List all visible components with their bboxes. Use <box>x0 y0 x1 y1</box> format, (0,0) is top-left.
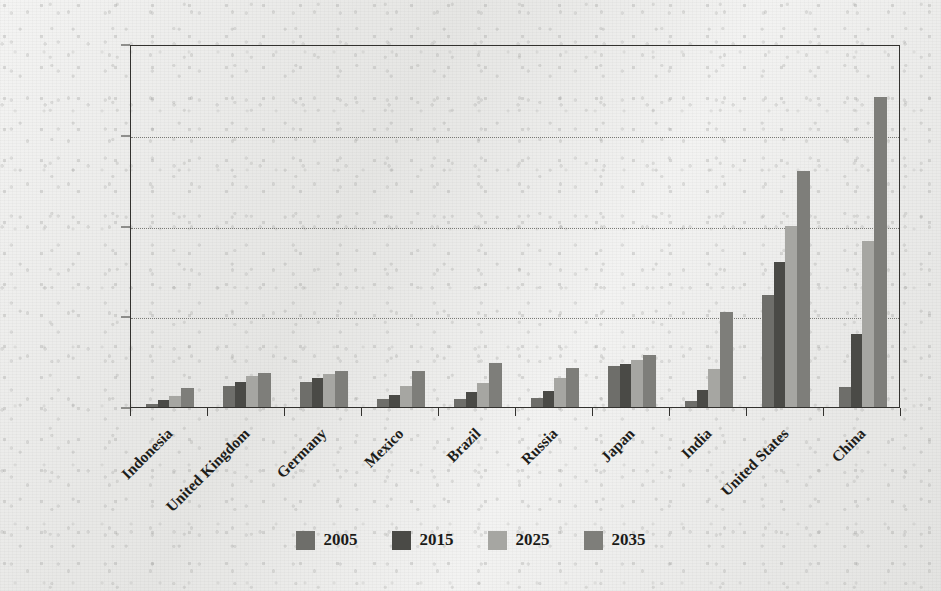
bar <box>412 371 424 407</box>
x-axis-tick-mark <box>823 408 824 416</box>
bar-chart: $0.00$10,000.00$20,000.00$30,000.00$40,0… <box>0 0 941 591</box>
y-axis-tick-mark <box>121 45 130 46</box>
x-axis-tick-mark <box>515 408 516 416</box>
bars-layer <box>131 46 899 407</box>
bar <box>720 312 732 407</box>
bar <box>223 386 235 407</box>
bar <box>477 383 489 407</box>
legend-label: 2015 <box>420 530 454 550</box>
bar <box>454 399 466 407</box>
bar-group <box>762 46 810 407</box>
bar-group <box>531 46 579 407</box>
legend-swatch-icon <box>392 531 411 550</box>
bar <box>543 391 555 407</box>
bar <box>774 262 786 407</box>
x-axis-tick-mark <box>669 408 670 416</box>
x-axis-tick-mark <box>207 408 208 416</box>
legend-label: 2035 <box>612 530 646 550</box>
legend-swatch-icon <box>584 531 603 550</box>
bar-group <box>300 46 348 407</box>
bar-group <box>454 46 502 407</box>
bar <box>643 355 655 407</box>
bar <box>797 171 809 407</box>
bar <box>531 398 543 407</box>
plot-area <box>130 45 900 408</box>
legend-item[interactable]: 2005 <box>296 530 358 550</box>
bar <box>300 382 312 407</box>
x-axis-category-label: Germany <box>89 425 331 591</box>
bar <box>685 401 697 407</box>
bar <box>862 241 874 407</box>
bar <box>466 392 478 407</box>
bar-group <box>223 46 271 407</box>
bar <box>489 363 501 407</box>
x-axis-tick-mark <box>438 408 439 416</box>
bar <box>708 369 720 407</box>
legend-swatch-icon <box>488 531 507 550</box>
bar <box>158 400 170 407</box>
bar <box>169 396 181 407</box>
bar-group <box>146 46 194 407</box>
bar <box>400 386 412 407</box>
bar <box>377 399 389 407</box>
x-axis-tick-mark <box>592 408 593 416</box>
legend-item[interactable]: 2025 <box>488 530 550 550</box>
x-axis-tick-mark <box>130 408 131 416</box>
bar <box>631 360 643 407</box>
bar-group <box>377 46 425 407</box>
bar-group <box>839 46 887 407</box>
x-axis-tick-mark <box>361 408 362 416</box>
bar <box>246 376 258 407</box>
y-axis-tick-mark <box>121 317 130 318</box>
legend-label: 2005 <box>324 530 358 550</box>
legend-label: 2025 <box>516 530 550 550</box>
bar <box>146 404 158 407</box>
bar <box>235 382 247 407</box>
bar <box>312 378 324 407</box>
legend-swatch-icon <box>296 531 315 550</box>
bar-group <box>685 46 733 407</box>
bar <box>874 97 886 407</box>
y-axis-tick-mark <box>121 135 130 136</box>
bar <box>323 374 335 407</box>
y-axis-tick-mark <box>121 408 130 409</box>
bar <box>785 226 797 408</box>
bar <box>620 364 632 407</box>
x-axis-tick-mark <box>284 408 285 416</box>
bar <box>335 371 347 407</box>
bar <box>181 388 193 408</box>
bar <box>554 378 566 407</box>
x-axis-tick-mark <box>900 408 901 416</box>
legend-item[interactable]: 2035 <box>584 530 646 550</box>
legend-item[interactable]: 2015 <box>392 530 454 550</box>
bar <box>762 295 774 407</box>
bar <box>851 334 863 407</box>
bar-group <box>608 46 656 407</box>
bar <box>608 366 620 407</box>
bar <box>566 368 578 407</box>
x-axis-tick-mark <box>746 408 747 416</box>
bar <box>389 395 401 407</box>
bar <box>839 387 851 407</box>
y-axis-tick-mark <box>121 226 130 227</box>
chart-legend: 2005201520252035 <box>0 530 941 550</box>
bar <box>258 373 270 407</box>
bar <box>697 390 709 407</box>
